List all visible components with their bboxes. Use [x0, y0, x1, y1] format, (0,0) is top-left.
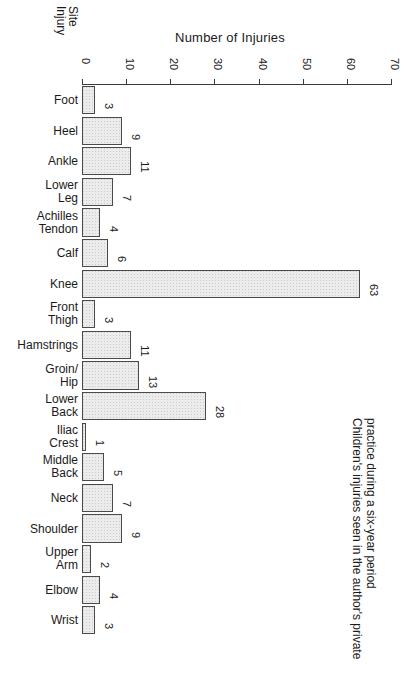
bar-category-label: Elbow: [0, 583, 78, 596]
bar: [82, 453, 104, 481]
bar-value-label: 7: [121, 195, 133, 201]
figure-caption-line-2: practice during a six-year period: [364, 418, 378, 589]
bar: [82, 239, 108, 267]
figure-caption: Children's injuries seen in the author's…: [352, 418, 408, 462]
bar-category-label: Iliac Crest: [0, 424, 78, 450]
y-axis-title-line-2: Site: [66, 6, 80, 27]
bar: [82, 361, 139, 389]
x-axis-tick-label: 30: [212, 58, 224, 70]
bar-row: Lower Leg7: [0, 177, 408, 208]
bar-value-label: 3: [103, 317, 115, 323]
bar-value-label: 11: [139, 162, 151, 173]
bar: [82, 270, 360, 298]
bar-value-label: 13: [147, 376, 159, 388]
bar-category-label: Lower Back: [0, 393, 78, 419]
bar: [82, 208, 100, 236]
injury-site-bar-chart: Injury Site Number of Injuries 010203040…: [0, 0, 408, 690]
bar: [82, 331, 131, 359]
bar-category-label: Groin/ Hip: [0, 363, 78, 389]
x-axis-tick-label: 40: [257, 58, 269, 70]
bar-value-label: 3: [103, 623, 115, 629]
bar: [82, 117, 122, 145]
bar-category-label: Front Thigh: [0, 301, 78, 327]
bar-row: Wrist3: [0, 605, 408, 636]
bar-row: Elbow4: [0, 575, 408, 606]
bar: [82, 423, 86, 451]
bar-value-label: 2: [99, 562, 111, 568]
bar: [82, 178, 113, 206]
bar-row: Heel9: [0, 116, 408, 147]
bar-rows: Foot3Heel9Ankle11Lower Leg7Achilles Tend…: [0, 85, 408, 636]
bar-category-label: Ankle: [0, 155, 78, 168]
bar-value-label: 3: [103, 103, 115, 109]
bar-value-label: 11: [139, 345, 151, 356]
bar-value-label: 7: [121, 501, 133, 507]
bar-value-label: 4: [108, 593, 120, 599]
bar-value-label: 5: [112, 470, 124, 476]
bar-row: Foot3: [0, 85, 408, 116]
x-axis-title: Number of Injuries: [120, 30, 340, 45]
bar: [82, 606, 95, 634]
bar-row: Hamstrings11: [0, 330, 408, 361]
bar-category-label: Achilles Tendon: [0, 210, 78, 236]
bar: [82, 545, 91, 573]
bar-row: Groin/ Hip13: [0, 360, 408, 391]
bar: [82, 514, 122, 542]
bar: [82, 300, 95, 328]
x-axis-tick-label: 10: [124, 58, 136, 70]
bar-category-label: Knee: [0, 277, 78, 290]
bar-row: Knee63: [0, 269, 408, 300]
bar-row: Shoulder9: [0, 513, 408, 544]
bar: [82, 86, 95, 114]
bar-value-label: 28: [214, 406, 226, 418]
bar-category-label: Foot: [0, 94, 78, 107]
figure-caption-line-1: Children's injuries seen in the author's…: [350, 418, 364, 659]
bar-row: Lower Back28: [0, 391, 408, 422]
bar-row: Upper Arm2: [0, 544, 408, 575]
y-axis-title: Injury Site: [54, 6, 110, 62]
bar: [82, 576, 100, 604]
bar-value-label: 6: [116, 256, 128, 262]
bar: [82, 392, 206, 420]
bar-category-label: Middle Back: [0, 454, 78, 480]
bar-row: Achilles Tendon4: [0, 207, 408, 238]
x-axis-tick-label: 60: [345, 58, 357, 70]
bar-row: Neck7: [0, 483, 408, 514]
bar-category-label: Lower Leg: [0, 179, 78, 205]
bar-row: Middle Back5: [0, 452, 408, 483]
bar-row: Ankle11: [0, 146, 408, 177]
x-axis-tick-label: 50: [301, 58, 313, 70]
bar-row: Iliac Crest1: [0, 422, 408, 453]
x-axis-tick-label: 0: [80, 58, 92, 64]
bar-value-label: 9: [130, 134, 142, 140]
bar-category-label: Shoulder: [0, 522, 78, 535]
bar-category-label: Hamstrings: [0, 339, 78, 352]
bar-row: Front Thigh3: [0, 299, 408, 330]
bar-category-label: Wrist: [0, 614, 78, 627]
bar-row: Calf6: [0, 238, 408, 269]
bar-value-label: 9: [130, 532, 142, 538]
bar-value-label: 4: [108, 226, 120, 232]
x-axis-tick-label: 70: [389, 58, 401, 70]
bar-category-label: Upper Arm: [0, 546, 78, 572]
bar: [82, 147, 131, 175]
bar: [82, 484, 113, 512]
bar-category-label: Neck: [0, 492, 78, 505]
bar-value-label: 1: [94, 440, 106, 446]
bar-category-label: Calf: [0, 247, 78, 260]
x-axis-tick-label: 20: [168, 58, 180, 70]
bar-value-label: 63: [368, 284, 380, 296]
bar-category-label: Heel: [0, 124, 78, 137]
